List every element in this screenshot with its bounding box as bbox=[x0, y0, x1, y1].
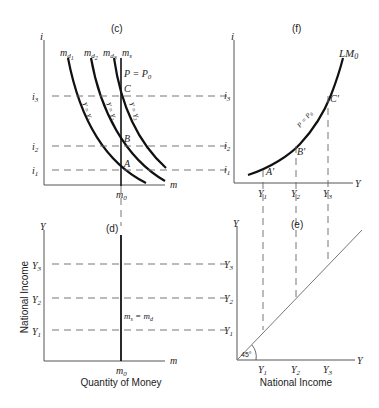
panel-e-title: (e) bbox=[291, 219, 303, 230]
panel-d-title: (d) bbox=[106, 223, 118, 234]
panel-e-x-axis-label: Y bbox=[357, 355, 364, 366]
panel-c-tick-i3: i3 bbox=[32, 91, 39, 104]
ms-label: ms bbox=[122, 47, 132, 60]
panel-f-tick-i2-label: i2 bbox=[224, 140, 231, 153]
point-b: B bbox=[124, 133, 130, 144]
md1-param-label: Y = Y1 bbox=[80, 101, 93, 121]
panel-f-tick-y1: Y1 bbox=[258, 188, 267, 201]
panel-d-x-axis-label: m bbox=[170, 355, 177, 366]
panel-d-y-axis-label: Y bbox=[40, 221, 47, 232]
panel-e-y-axis-label: Y bbox=[233, 218, 240, 229]
angle-arc bbox=[252, 345, 256, 360]
panel-f-tick-i3-label: i3 bbox=[224, 90, 231, 103]
point-a: A bbox=[123, 158, 131, 169]
panel-e-tick-y3: Y3 bbox=[224, 259, 234, 272]
point-c: C bbox=[124, 83, 131, 94]
45-degree-line bbox=[237, 230, 362, 360]
panel-c-tick-i2: i2 bbox=[32, 141, 39, 154]
md3-param-label: Y = Y3 bbox=[127, 101, 140, 122]
lm-price-label: P = P0 bbox=[295, 109, 315, 130]
panel-c-money-market: (c) i m i3 i2 i1 m0 md1 md2 md3 ms Y = Y… bbox=[32, 23, 177, 202]
panel-f-title: (f) bbox=[292, 23, 301, 34]
ms-equals-md-label: ms = md bbox=[124, 311, 154, 322]
panel-d-tick-y1: Y1 bbox=[32, 326, 41, 339]
panel-d-y-axis-title: National Income bbox=[19, 260, 30, 333]
md1-label: md1 bbox=[60, 47, 74, 61]
panel-d-tick-y2: Y2 bbox=[32, 294, 42, 307]
panel-e-45-degree: (e) Y Y Y3 Y2 Y1 Y1 Y2 Y3 45° National I… bbox=[224, 218, 364, 388]
panel-c-title: (c) bbox=[111, 23, 123, 34]
lm-curve-label: LM0 bbox=[338, 47, 358, 61]
panel-d-money-income: (d) Y m Y3 Y2 Y1 National Income ms = md… bbox=[19, 221, 177, 388]
panel-c-tick-m0: m0 bbox=[116, 189, 127, 202]
panel-f-tick-i1-label: i1 bbox=[224, 164, 230, 177]
panel-f-lm-curve: (f) i Y i3 i2 i1 Y1 Y2 Y3 LM0 P = P0 A' … bbox=[224, 23, 362, 201]
panel-d-tick-y3: Y3 bbox=[32, 260, 42, 273]
md2-label: md2 bbox=[84, 47, 98, 61]
panel-f-y-axis-label: i bbox=[231, 30, 234, 42]
panel-f-x-axis-label: Y bbox=[355, 178, 362, 189]
lm-curve bbox=[248, 58, 343, 175]
panel-c-tick-i1: i1 bbox=[32, 165, 38, 178]
panel-e-tick-x-y2: Y2 bbox=[291, 364, 301, 377]
panel-e-tick-x-y3: Y3 bbox=[323, 364, 333, 377]
panel-e-tick-x-y1: Y1 bbox=[258, 364, 267, 377]
point-b-prime: B' bbox=[297, 146, 306, 157]
panel-d-x-axis-title: Quantity of Money bbox=[80, 377, 161, 388]
angle-label: 45° bbox=[241, 351, 252, 358]
panel-c-y-axis-label: i bbox=[40, 30, 43, 42]
price-level-label: P = P0 bbox=[123, 68, 152, 81]
is-lm-derivation-diagram: (c) i m i3 i2 i1 m0 md1 md2 md3 ms Y = Y… bbox=[0, 0, 379, 408]
panel-e-tick-y1: Y1 bbox=[224, 325, 233, 338]
point-c-prime: C' bbox=[330, 93, 340, 104]
panel-c-x-axis-label: m bbox=[170, 179, 177, 190]
panel-e-x-axis-title: National Income bbox=[260, 377, 333, 388]
md3-label: md3 bbox=[103, 47, 117, 61]
point-a-prime: A' bbox=[265, 166, 275, 177]
panel-e-tick-y2: Y2 bbox=[224, 293, 234, 306]
